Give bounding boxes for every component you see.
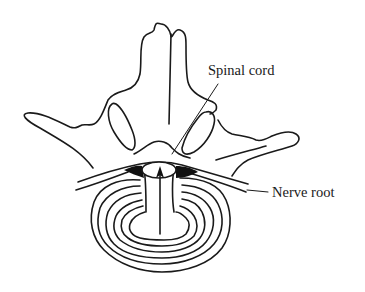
right-facet xyxy=(182,112,215,154)
right-compression-wedge xyxy=(176,166,198,178)
nerve-root-label: Nerve root xyxy=(272,185,334,200)
spinal-cord-label: Spinal cord xyxy=(208,63,274,78)
spinous-midline xyxy=(169,34,171,124)
herniation-arrow-icon xyxy=(156,166,164,234)
vertebra-outline xyxy=(24,23,216,168)
vertebra-diagram xyxy=(0,0,365,292)
left-facet xyxy=(108,103,135,150)
nerve-root-leader xyxy=(247,190,268,192)
spinal-cord-leader xyxy=(172,84,218,154)
right-transverse-inner xyxy=(216,146,266,160)
